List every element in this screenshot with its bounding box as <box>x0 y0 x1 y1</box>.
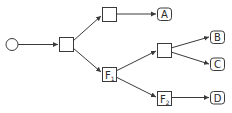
label-b: B <box>214 32 221 43</box>
decision-tree-diagram: F1 F2 A B C D <box>0 0 232 113</box>
edge-n3-c <box>171 52 209 64</box>
edge-n1-f1 <box>73 48 101 72</box>
decision-node-3 <box>158 44 172 58</box>
label-a: A <box>161 9 168 20</box>
decision-node-2 <box>103 8 117 22</box>
root-chance-node <box>6 39 18 51</box>
decision-node-1 <box>60 38 74 52</box>
edge-n3-b <box>171 37 209 48</box>
label-c: C <box>214 59 221 70</box>
label-d: D <box>214 93 222 104</box>
edge-f1-f2 <box>116 77 156 97</box>
edge-f1-n3 <box>116 51 156 71</box>
edge-n1-n2 <box>73 16 101 41</box>
